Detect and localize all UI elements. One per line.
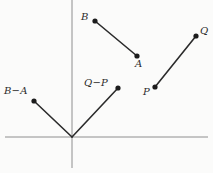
vector-label-b-minus-a: B−A <box>4 86 28 96</box>
point-marker-p <box>152 84 157 89</box>
point-label-q: Q <box>200 26 208 36</box>
segment-origin-to-q-minus-p <box>72 88 118 137</box>
point-label-p: P <box>143 87 150 97</box>
vector-label-q-minus-p: Q−P <box>84 78 108 88</box>
segment-origin-to-b-minus-a <box>34 101 72 137</box>
point-label-b: B <box>81 12 89 22</box>
vector-diagram-figure: B A Q P B−A Q−P <box>0 0 213 173</box>
point-marker-q-minus-p <box>115 85 120 90</box>
point-label-a: A <box>135 59 142 69</box>
segment-p-to-q <box>155 36 196 87</box>
point-marker-b-minus-a <box>31 98 36 103</box>
segment-b-to-a <box>95 21 137 56</box>
point-marker-q <box>193 33 198 38</box>
point-marker-b <box>92 18 97 23</box>
